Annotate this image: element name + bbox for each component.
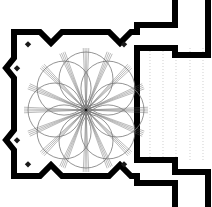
rosette-petal-7: [37, 61, 91, 115]
floor-plan-canvas: [0, 0, 212, 207]
rosette-center-point: [85, 109, 87, 111]
floor-plan-figure: [0, 0, 212, 207]
